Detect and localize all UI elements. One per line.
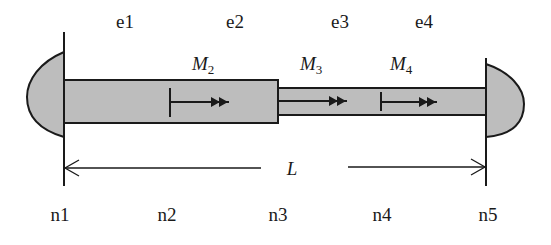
node-label-n2: n2 — [158, 204, 177, 225]
element-label-e4: e4 — [415, 11, 433, 32]
node-label-n1: n1 — [51, 204, 70, 225]
element-label-e1: e1 — [116, 11, 134, 32]
moment-label-m3: M3 — [299, 53, 322, 77]
left-support-icon — [27, 52, 64, 137]
element-label-e2: e2 — [226, 11, 244, 32]
node-label-n5: n5 — [479, 204, 498, 225]
element-label-e3: e3 — [331, 11, 349, 32]
dimension-line-l — [65, 159, 485, 176]
dimension-label: L — [286, 158, 298, 179]
node-label-n3: n3 — [269, 204, 288, 225]
moment-label-m2: M2 — [191, 53, 214, 77]
moment-label-m4: M4 — [389, 53, 413, 77]
node-label-n4: n4 — [373, 204, 393, 225]
right-support-icon — [486, 64, 524, 137]
stepped-bar-diagram: L e1 e2 e3 e4 M2 M3 M4 n1 n2 n3 n4 n5 — [0, 0, 551, 245]
